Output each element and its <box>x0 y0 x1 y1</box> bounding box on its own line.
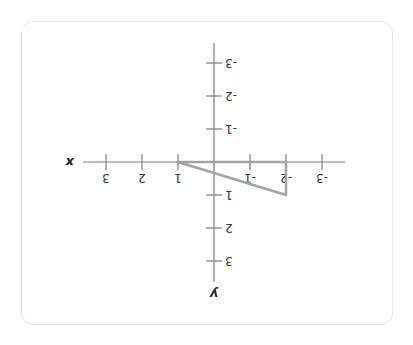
svg-text:2: 2 <box>225 221 233 235</box>
x-axis-label: x <box>65 155 75 170</box>
y-axis-label: y <box>209 287 218 302</box>
svg-text:-3: -3 <box>316 171 328 185</box>
coordinate-plane: -3 -2 -1 1 2 3 -3 -2 -1 1 2 3 x y <box>1 1 413 345</box>
diagram-card: -3 -2 -1 1 2 3 -3 -2 -1 1 2 3 x y <box>21 21 393 325</box>
svg-text:-1: -1 <box>225 122 237 136</box>
svg-text:1: 1 <box>174 171 182 185</box>
svg-text:-2: -2 <box>225 89 237 103</box>
svg-text:3: 3 <box>225 254 233 268</box>
svg-text:-3: -3 <box>225 56 237 70</box>
svg-text:3: 3 <box>102 171 110 185</box>
svg-text:2: 2 <box>138 171 146 185</box>
svg-text:1: 1 <box>225 188 233 202</box>
